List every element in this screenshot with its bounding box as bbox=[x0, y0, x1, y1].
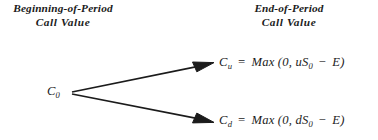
formula-up-function: Max bbox=[252, 55, 275, 69]
formula-up-close-paren: ) bbox=[340, 55, 344, 69]
formula-down-coefficient: dS bbox=[295, 113, 308, 127]
formula-up-symbol: C bbox=[219, 55, 228, 69]
formula-down-function: Max bbox=[252, 113, 275, 127]
formula-call-value-up: Cu = Max (0, uS0 − E) bbox=[219, 55, 345, 70]
binomial-call-value-figure: Beginning-of-Period Call Value End-of-Pe… bbox=[0, 0, 378, 140]
up-branch-arrowhead bbox=[193, 62, 215, 72]
formula-call-value-down: Cd = Max (0, dS0 − E) bbox=[219, 113, 345, 128]
formula-up-coefficient: uS bbox=[295, 55, 308, 69]
down-branch-line bbox=[72, 94, 203, 120]
formula-up-equals: = bbox=[237, 55, 246, 69]
formula-down-coefficient-subscript: 0 bbox=[308, 119, 312, 129]
formula-down-equals: = bbox=[237, 113, 246, 127]
up-branch-line bbox=[72, 65, 203, 92]
formula-down-minus: − bbox=[318, 113, 327, 127]
formula-down-symbol: C bbox=[219, 113, 228, 127]
formula-up-coefficient-subscript: 0 bbox=[308, 61, 312, 71]
node-c0-subscript: 0 bbox=[55, 90, 59, 100]
formula-down-subscript: d bbox=[228, 119, 232, 129]
formula-down-close-paren: ) bbox=[340, 113, 344, 127]
node-c0: C0 bbox=[47, 84, 60, 99]
down-branch-arrowhead bbox=[193, 113, 215, 123]
formula-up-subscript: u bbox=[228, 61, 232, 71]
formula-up-minus: − bbox=[318, 55, 327, 69]
